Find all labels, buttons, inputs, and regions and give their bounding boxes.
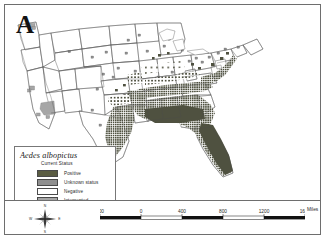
scale-tick-4: 1200 bbox=[259, 209, 270, 214]
county-intercepted bbox=[46, 116, 50, 119]
compass-label-north: N bbox=[44, 204, 47, 208]
scale-bar: 400 0 400 800 1200 1600 bbox=[100, 206, 305, 228]
county-intercepted bbox=[37, 113, 41, 116]
scale-units-label: Miles bbox=[307, 207, 318, 213]
legend-item-positive: Positive bbox=[37, 169, 115, 177]
legend-label-negative: Negative bbox=[64, 188, 83, 195]
scale-tick-0: 400 bbox=[100, 209, 104, 214]
legend-swatch-positive bbox=[37, 170, 58, 177]
scale-bar-ticks bbox=[100, 214, 305, 216]
scale-tick-2: 400 bbox=[178, 209, 186, 214]
compass-label-west: W bbox=[29, 217, 33, 221]
legend-item-negative: Negative bbox=[37, 187, 115, 195]
legend-title: Aedes albopictus bbox=[20, 151, 115, 160]
scale-bar-segments bbox=[100, 216, 305, 219]
legend-swatch-unknown bbox=[37, 179, 58, 186]
map-footer-bar: N S E W 400 0 400 bbox=[5, 200, 320, 234]
legend-swatch-negative bbox=[37, 188, 58, 195]
panel-letter: A bbox=[16, 12, 34, 37]
scale-tick-5: 1600 bbox=[300, 209, 305, 214]
compass-label-south: S bbox=[44, 230, 47, 234]
legend-label-unknown: Unknown status bbox=[64, 179, 98, 186]
figure-panel: A Aedes albopictus Current Status Positi… bbox=[0, 0, 325, 239]
compass-label-east: E bbox=[58, 217, 61, 221]
county-intercepted bbox=[28, 89, 32, 92]
map-panel[interactable]: A Aedes albopictus Current Status Positi… bbox=[5, 5, 320, 200]
legend-subtitle: Current Status bbox=[41, 161, 115, 167]
legend-label-positive: Positive bbox=[64, 170, 81, 177]
scale-tick-3: 800 bbox=[219, 209, 227, 214]
scale-tick-1: 0 bbox=[140, 209, 143, 214]
compass-rose-icon: N S E W bbox=[27, 204, 63, 234]
map-legend: Aedes albopictus Current Status Positive… bbox=[14, 146, 116, 200]
legend-item-unknown: Unknown status bbox=[37, 178, 115, 186]
